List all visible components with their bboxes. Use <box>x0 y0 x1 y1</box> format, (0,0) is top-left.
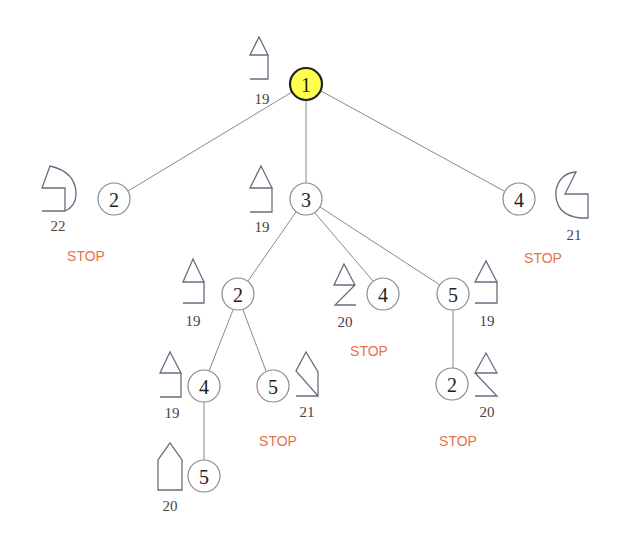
house-shape-icon <box>183 259 204 303</box>
node-label: 5 <box>448 284 458 306</box>
node-label: 4 <box>199 376 209 398</box>
node-score: 20 <box>338 314 353 330</box>
node-score: 20 <box>480 404 495 420</box>
node-score: 19 <box>165 405 180 421</box>
node-score: 20 <box>163 498 178 514</box>
house-shape-icon <box>160 352 181 397</box>
stop-label: STOP <box>350 343 388 359</box>
pacman-shape-icon <box>556 172 588 218</box>
node-label: 4 <box>378 284 388 306</box>
stop-label: STOP <box>524 250 562 266</box>
node-score: 19 <box>186 313 201 329</box>
node-score: 19 <box>255 219 270 235</box>
tree-node-1-root: 1 19 <box>250 37 322 107</box>
tree-node-3: 3 19 <box>250 166 322 235</box>
house-shape-icon <box>250 166 272 212</box>
edge-2-5 <box>243 310 266 371</box>
edge-3-4 <box>315 213 373 281</box>
tree-node-2-mid: 2 19 <box>183 259 254 329</box>
tree-node-2-low: 2 20 STOP <box>436 353 497 449</box>
tree-node-5-mid: 5 19 <box>437 261 497 329</box>
stop-label: STOP <box>67 248 105 264</box>
tree-node-2-left: 2 22 STOP <box>42 166 130 264</box>
house-shape-icon <box>475 261 497 303</box>
node-score: 21 <box>567 227 582 243</box>
node-label: 5 <box>268 376 278 398</box>
node-label: 2 <box>233 284 243 306</box>
tree-node-4-right: 4 21 STOP <box>503 172 588 266</box>
node-score: 19 <box>480 313 495 329</box>
edge-3-5 <box>320 207 440 285</box>
zigzag-triangle-shape-icon <box>475 353 497 396</box>
pentagon-house-shape-icon <box>158 443 182 490</box>
edges <box>128 91 504 460</box>
node-score: 21 <box>300 404 315 420</box>
edge-1-4 <box>321 91 504 191</box>
node-label: 2 <box>447 374 457 396</box>
node-label: 4 <box>514 189 524 211</box>
tree-node-5-low: 5 21 STOP <box>257 352 318 449</box>
tree-node-4-low: 4 19 <box>160 352 220 421</box>
zigzag-triangle-shape-icon <box>334 264 356 305</box>
quarter-arc-shape-icon <box>42 166 76 211</box>
kite-shape-icon <box>296 352 318 396</box>
node-score: 22 <box>51 218 66 234</box>
node-label: 2 <box>109 189 119 211</box>
house-shape-icon <box>250 37 268 79</box>
stop-label: STOP <box>439 433 477 449</box>
edge-2-4 <box>209 310 233 371</box>
node-label: 5 <box>199 466 209 488</box>
node-score: 19 <box>255 91 270 107</box>
stop-label: STOP <box>259 433 297 449</box>
node-label: 3 <box>301 189 311 211</box>
tree-node-5-bottom: 5 20 <box>158 443 220 514</box>
search-tree-diagram: 1 19 2 22 STOP 3 19 4 21 STOP 2 19 4 20 <box>0 0 619 544</box>
tree-node-4-mid: 4 20 STOP <box>334 264 399 359</box>
node-label: 1 <box>301 74 311 96</box>
